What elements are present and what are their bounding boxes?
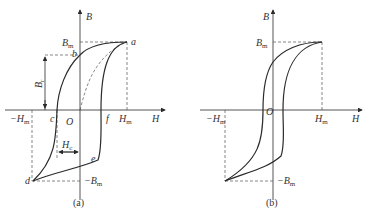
hc-label: Hc	[61, 139, 72, 152]
caption-b: (b)	[266, 197, 278, 209]
origin-label: O	[266, 106, 273, 117]
point-a: a	[131, 36, 136, 47]
caption-a: (a)	[73, 197, 84, 209]
point-b: b	[72, 48, 77, 59]
guide-lines	[32, 42, 127, 181]
neg-bm-label: −Bm	[277, 175, 296, 188]
neg-hm-label: −Hm	[10, 113, 30, 126]
origin-label: O	[66, 116, 73, 127]
hysteresis-figure: B H O Bm −Bm Hm −Hm Br Hc a b c d e f (a…	[0, 0, 369, 217]
point-f: f	[106, 113, 110, 124]
neg-bm-label: −Bm	[84, 175, 103, 188]
hysteresis-loop	[225, 42, 322, 181]
panel-b: B H O Bm −Bm Hm −Hm (b)	[200, 10, 362, 209]
h-axis-label: H	[351, 113, 360, 124]
hm-label: Hm	[314, 113, 328, 126]
b-axis-label: B	[86, 11, 92, 22]
point-e: e	[91, 153, 96, 164]
b-axis-label: B	[263, 11, 269, 22]
bm-label: Bm	[256, 37, 268, 50]
panel-a: B H O Bm −Bm Hm −Hm Br Hc a b c d e f (a…	[5, 10, 165, 209]
point-d: d	[25, 175, 31, 186]
neg-hm-label: −Hm	[206, 113, 226, 126]
hm-label: Hm	[118, 113, 132, 126]
point-c: c	[50, 113, 55, 124]
h-axis-label: H	[151, 113, 160, 124]
guide-lines	[225, 42, 322, 181]
br-label: Br	[33, 79, 46, 88]
